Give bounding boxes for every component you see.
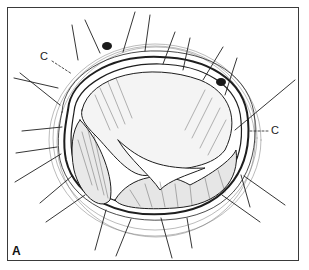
panel-label: A (12, 244, 21, 258)
valve-drawing (0, 0, 309, 270)
callout-label-c-left: C (40, 50, 48, 62)
leaflets (72, 72, 236, 209)
medical-illustration: C C A (0, 0, 309, 270)
callout-label-c-right: C (271, 124, 279, 136)
